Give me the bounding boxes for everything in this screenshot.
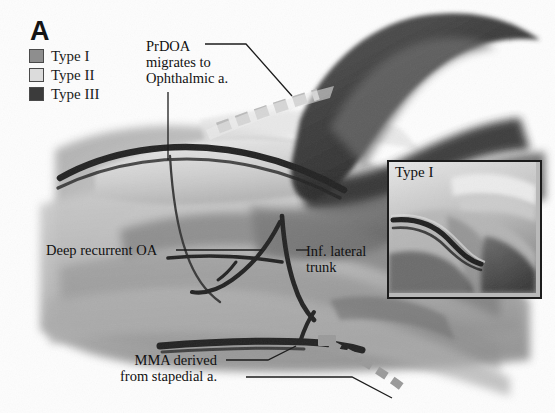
- figure-panel-a: A Type I Type II Type III PrDOA migrates…: [0, 0, 555, 413]
- leader-mma-lower: [246, 377, 392, 398]
- inset-illustration: [389, 162, 536, 293]
- leader-lines: [168, 44, 392, 398]
- legend-swatch-type-3: [29, 87, 44, 101]
- inset-panel-type-1: Type I: [387, 160, 542, 299]
- legend-label-type-1: Type I: [51, 49, 90, 64]
- legend-label-type-2: Type II: [51, 68, 95, 83]
- annotation-prdoa: PrDOA migrates to Ophthalmic a.: [146, 38, 228, 86]
- annotation-mma-stapedial: MMA derived from stapedial a.: [120, 352, 217, 384]
- legend-swatch-type-2: [29, 68, 44, 82]
- dural-sheet: [95, 110, 420, 204]
- legend: Type I Type II Type III: [29, 47, 100, 104]
- vessel-type-2-dashed-light: [206, 86, 334, 140]
- legend-item-type-3: Type III: [29, 85, 100, 103]
- lower-tissue: [48, 290, 510, 396]
- annotation-inf-lateral-trunk: Inf. lateral trunk: [306, 243, 366, 275]
- legend-swatch-type-1: [29, 49, 44, 63]
- legend-item-type-1: Type I: [29, 47, 100, 65]
- inset-label: Type I: [395, 164, 434, 181]
- leader-mma-upper: [226, 346, 296, 360]
- vessel-type-1-dashed-mid: [318, 335, 406, 390]
- annotation-deep-recurrent-oa: Deep recurrent OA: [46, 242, 157, 258]
- panel-label: A: [30, 18, 50, 45]
- legend-item-type-2: Type II: [29, 66, 100, 84]
- legend-label-type-3: Type III: [51, 87, 100, 102]
